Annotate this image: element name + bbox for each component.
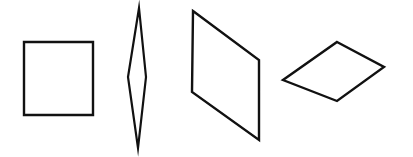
shape-square xyxy=(24,42,93,115)
figure-canvas: Four quadrilaterals xyxy=(0,0,413,157)
shapes-svg xyxy=(0,0,413,157)
